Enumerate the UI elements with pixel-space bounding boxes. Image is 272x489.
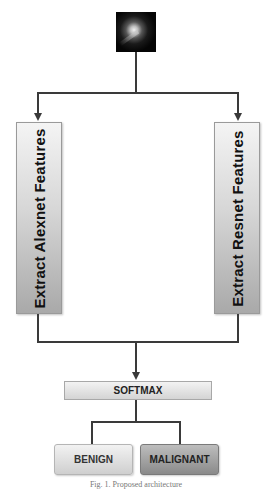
image-streak — [119, 30, 139, 46]
arrow-right-branch — [234, 113, 242, 121]
connector-split-horizontal — [37, 92, 239, 94]
arrow-left-branch — [34, 113, 42, 121]
connector-right-down — [237, 92, 239, 114]
resnet-features-label: Extract Resnet Features — [229, 130, 246, 306]
input-image — [116, 12, 156, 52]
connector-malignant-down — [179, 421, 181, 444]
softmax-box: SOFTMAX — [64, 381, 212, 400]
figure-caption: Fig. 1. Proposed architecture — [0, 480, 272, 489]
connector-image-down — [135, 52, 137, 93]
malignant-output-box: MALIGNANT — [140, 444, 219, 475]
connector-merge-horizontal — [37, 341, 239, 343]
arrow-to-softmax — [132, 372, 140, 380]
connector-left-down — [37, 92, 39, 114]
connector-benign-down — [91, 421, 93, 444]
connector-output-horizontal — [91, 421, 181, 423]
alexnet-features-box: Extract Alexnet Features — [16, 122, 62, 314]
benign-output-box: BENIGN — [54, 444, 133, 475]
benign-label: BENIGN — [74, 454, 113, 465]
connector-merge-to-softmax — [135, 341, 137, 373]
connector-softmax-down — [135, 400, 137, 422]
softmax-label: SOFTMAX — [114, 385, 163, 396]
resnet-features-box: Extract Resnet Features — [214, 122, 260, 314]
alexnet-features-label: Extract Alexnet Features — [31, 128, 48, 308]
malignant-label: MALIGNANT — [150, 454, 210, 465]
connector-left-merge-down — [37, 314, 39, 342]
connector-right-merge-down — [237, 314, 239, 342]
